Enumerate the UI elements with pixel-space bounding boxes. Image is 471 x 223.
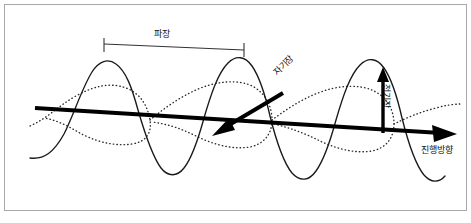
wave-diagram-canvas bbox=[0, 0, 471, 223]
wavelength-bracket-span bbox=[104, 44, 244, 50]
propagation-direction-label: 진행방향 bbox=[421, 146, 453, 155]
propagation-axis-arrowhead bbox=[432, 125, 457, 142]
wavelength-label: 파장 bbox=[154, 30, 170, 39]
electric-field-label: 전기장 bbox=[381, 84, 390, 108]
electromagnetic-wave-figure: 파장 자기장 전기장 진행방향 bbox=[0, 0, 471, 223]
magnetic-field-wave-dotted-3 bbox=[272, 86, 394, 151]
magnetic-field-wave-dotted-4 bbox=[394, 104, 462, 124]
